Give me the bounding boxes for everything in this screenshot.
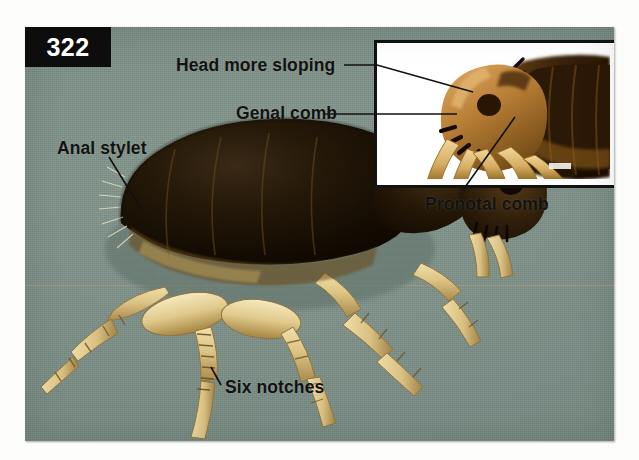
inset-flea-head-illustration (377, 43, 610, 179)
label-anal-stylet: Anal stylet (57, 138, 147, 159)
label-head-more-sloping: Head more sloping (176, 55, 335, 76)
main-photograph: Head more sloping Genal comb Anal stylet… (25, 27, 614, 441)
figure-plate: Head more sloping Genal comb Anal stylet… (0, 0, 639, 460)
label-six-notches: Six notches (225, 377, 324, 398)
inset-photograph (374, 40, 614, 188)
label-genal-comb: Genal comb (236, 103, 337, 124)
figure-number-badge: 322 (25, 27, 111, 67)
label-pronotal-comb: Pronotal comb (425, 194, 549, 215)
